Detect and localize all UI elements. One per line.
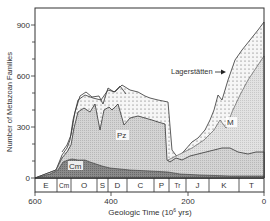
x-tick-400: 400: [104, 197, 118, 206]
period-c: C: [138, 181, 144, 190]
x-axis: [35, 192, 264, 196]
label-pz: Pz: [117, 131, 126, 140]
label-lagerstatten: Lagerstätten: [171, 67, 213, 76]
y-tick-0: 0: [26, 174, 31, 183]
y-tick-900: 900: [17, 21, 31, 30]
y-tick-300: 300: [17, 123, 31, 132]
period-p: P: [159, 181, 164, 190]
x-tick-600: 600: [28, 197, 42, 206]
chart: 900 600 300 0 Number of Metazoan Familie…: [0, 0, 270, 221]
arrowhead-icon: [221, 70, 226, 75]
period-t: T: [249, 181, 254, 190]
y-axis: [31, 25, 35, 178]
y-tick-600: 600: [17, 72, 31, 81]
label-m: M: [227, 118, 234, 127]
x-tick-200: 200: [181, 197, 195, 206]
y-axis-label: Number of Metazoan Families: [5, 52, 14, 152]
period-cm: Cm: [59, 182, 69, 189]
label-cm: Cm: [69, 162, 82, 171]
x-tick-0: 0: [262, 197, 267, 206]
period-tr: Tr: [175, 182, 182, 189]
period-e: E: [43, 181, 48, 190]
x-axis-label: Geologic Time (106 yrs): [108, 207, 192, 217]
period-k: K: [221, 181, 227, 190]
period-o: O: [81, 181, 87, 190]
period-j: J: [196, 181, 200, 190]
period-s: S: [100, 181, 105, 190]
period-d: D: [115, 181, 121, 190]
